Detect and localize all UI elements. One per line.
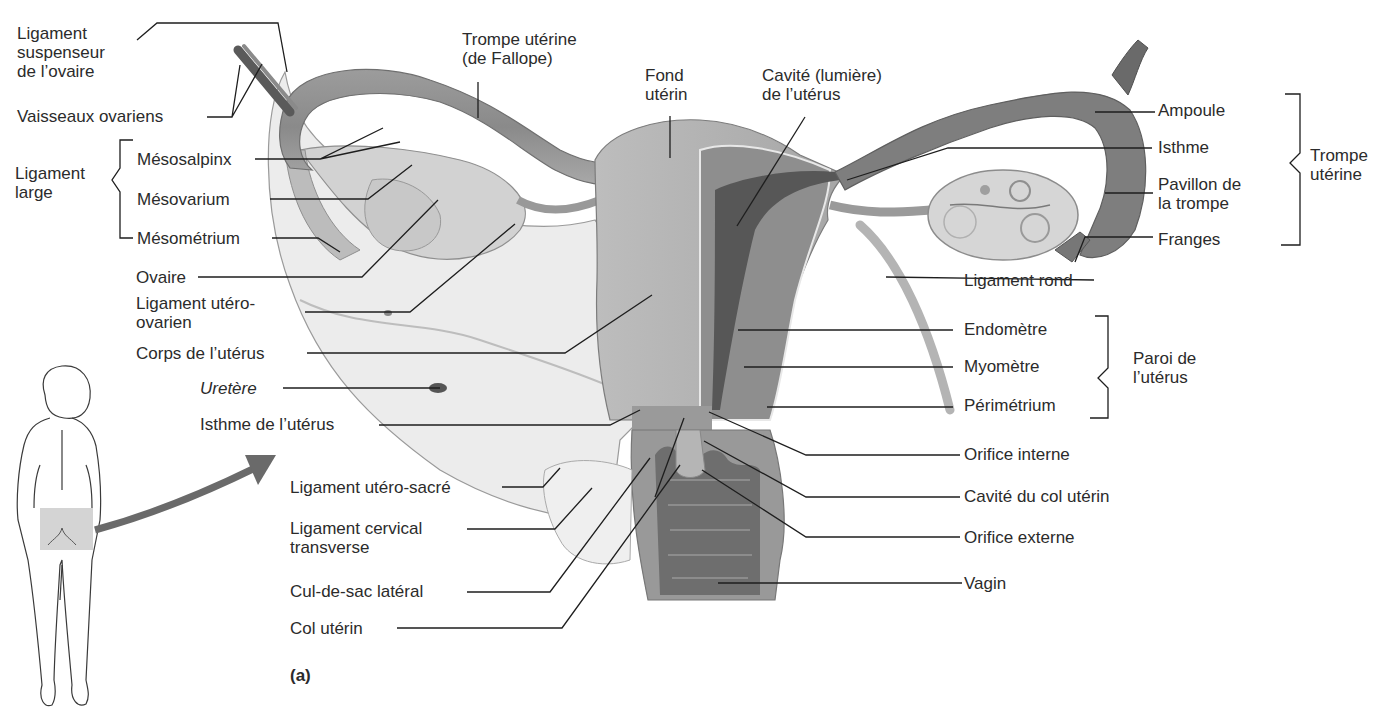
highlight-region <box>40 508 93 550</box>
left-ovary-shape <box>285 146 525 260</box>
label-fond-uterin: Fond utérin <box>645 66 688 104</box>
label-ligament-large: Ligament large <box>15 164 85 202</box>
label-orifice-interne: Orifice interne <box>964 445 1070 464</box>
label-corps-uterus: Corps de l’utérus <box>136 344 265 363</box>
label-orifice-externe: Orifice externe <box>964 528 1075 547</box>
label-perimetrium: Périmétrium <box>964 396 1056 415</box>
broad-ligament-shape <box>268 72 640 520</box>
label-ligament-cervical: Ligament cervical transverse <box>290 519 422 557</box>
label-col-uterin: Col utérin <box>290 619 363 638</box>
label-ligament-suspenseur: Ligament suspenseur de l’ovaire <box>17 24 105 81</box>
label-ampoule: Ampoule <box>1158 101 1225 120</box>
label-ligament-utero-sacre: Ligament utéro-sacré <box>290 478 451 497</box>
panel-label: (a) <box>290 666 311 685</box>
label-endometre: Endomètre <box>964 320 1047 339</box>
label-vagin: Vagin <box>964 574 1006 593</box>
label-franges: Franges <box>1158 230 1220 249</box>
uterus-shape <box>595 120 845 430</box>
anatomy-figure: Ligament suspenseur de l’ovaire Vaisseau… <box>0 0 1394 713</box>
label-paroi-uterus: Paroi de l’utérus <box>1133 349 1196 387</box>
label-uretere: Uretère <box>200 379 257 398</box>
label-cavite-uterus: Cavité (lumière) de l’utérus <box>762 66 882 104</box>
label-cul-de-sac: Cul-de-sac latéral <box>290 582 423 601</box>
label-trompe-fallope: Trompe utérine (de Fallope) <box>462 30 577 68</box>
label-pavillon: Pavillon de la trompe <box>1158 175 1241 213</box>
label-vaisseaux-ovariens: Vaisseaux ovariens <box>17 107 163 126</box>
arrow-icon <box>95 455 276 530</box>
label-mesometrium: Mésométrium <box>137 229 240 248</box>
label-isthme-uterus: Isthme de l’utérus <box>200 415 334 434</box>
label-isthme: Isthme <box>1158 138 1209 157</box>
label-cavite-col: Cavité du col utérin <box>964 487 1110 506</box>
label-ovaire: Ovaire <box>136 268 186 287</box>
label-trompe-uterine-group: Trompe utérine <box>1310 146 1368 184</box>
label-ligament-rond: Ligament rond <box>964 271 1073 290</box>
label-mesosalpinx: Mésosalpinx <box>137 150 232 169</box>
label-myometre: Myomètre <box>964 357 1040 376</box>
label-ligament-utero-ovarien: Ligament utéro- ovarien <box>136 294 255 332</box>
label-mesovarium: Mésovarium <box>137 190 230 209</box>
